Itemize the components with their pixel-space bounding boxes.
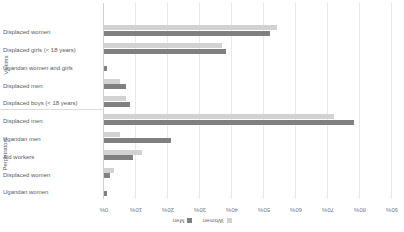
x-tick-9: 90% — [386, 207, 398, 213]
x-tick-2: 20% — [162, 207, 174, 213]
bar-men — [104, 49, 226, 54]
category-label: Displaced men — [3, 118, 99, 124]
bar-women — [104, 150, 142, 155]
bar-women — [104, 114, 334, 119]
table-row: Displaced men — [0, 110, 404, 128]
bar-women — [104, 79, 120, 84]
bar-men — [104, 173, 110, 178]
table-row: Displaced boys (< 18 years) — [0, 92, 404, 110]
bar-women — [104, 132, 120, 137]
category-label: Ugandan men — [3, 136, 99, 142]
x-tick-1: 10% — [130, 207, 142, 213]
bar-men — [104, 31, 270, 36]
bar-women — [104, 43, 222, 48]
table-row: Aid workers — [0, 146, 404, 164]
table-row: Displaced girls (< 18 years) — [0, 39, 404, 57]
category-label: Ugandan women and girls — [3, 65, 99, 71]
x-tick-4: 40% — [226, 207, 238, 213]
x-tick-3: 30% — [194, 207, 206, 213]
bar-men — [104, 191, 107, 196]
category-label: Displaced women — [3, 29, 99, 35]
chart-screenshot: Women Men 0% 10% 20% 30% 40% 50% 60% 70%… — [0, 0, 404, 232]
bar-men — [104, 84, 126, 89]
bar-women — [104, 25, 277, 30]
legend-entry-men: Men — [172, 218, 192, 224]
category-label: Aid workers — [3, 154, 99, 160]
table-row: Ugandan men — [0, 128, 404, 146]
table-row: Ugandan women and girls — [0, 57, 404, 75]
category-label: Displaced women — [3, 172, 99, 178]
x-axis: 0% 10% 20% 30% 40% 50% 60% 70% 80% 90% — [0, 199, 404, 213]
x-tick-0: 0% — [100, 207, 109, 213]
legend-entry-women: Women — [202, 218, 231, 224]
bar-women — [104, 168, 114, 173]
x-tick-8: 80% — [354, 207, 366, 213]
category-label: Displaced boys (< 18 years) — [3, 101, 99, 107]
bar-men — [104, 138, 171, 143]
category-label: Displaced men — [3, 83, 99, 89]
x-tick-6: 60% — [290, 207, 302, 213]
legend-label-women: Women — [202, 218, 223, 224]
rotated-figure: Women Men 0% 10% 20% 30% 40% 50% 60% 70%… — [0, 0, 404, 232]
bar-men — [104, 66, 107, 71]
plot-area: Perpetrators Victims Ugandan women Displ… — [0, 3, 404, 199]
bar-women — [104, 96, 126, 101]
legend-swatch-men — [187, 219, 192, 224]
table-row: Displaced women — [0, 163, 404, 181]
bar-men — [104, 120, 354, 125]
bar-men — [104, 155, 133, 160]
chart-legend: Women Men — [0, 214, 404, 228]
category-label: Displaced girls (< 18 years) — [3, 47, 99, 53]
bar-men — [104, 102, 130, 107]
table-row: Ugandan women — [0, 181, 404, 199]
table-row: Displaced women — [0, 21, 404, 39]
category-label: Ugandan women — [3, 190, 99, 196]
x-tick-7: 70% — [322, 207, 334, 213]
table-row: Displaced men — [0, 74, 404, 92]
legend-label-men: Men — [172, 218, 184, 224]
x-tick-5: 50% — [258, 207, 270, 213]
legend-swatch-women — [227, 219, 232, 224]
